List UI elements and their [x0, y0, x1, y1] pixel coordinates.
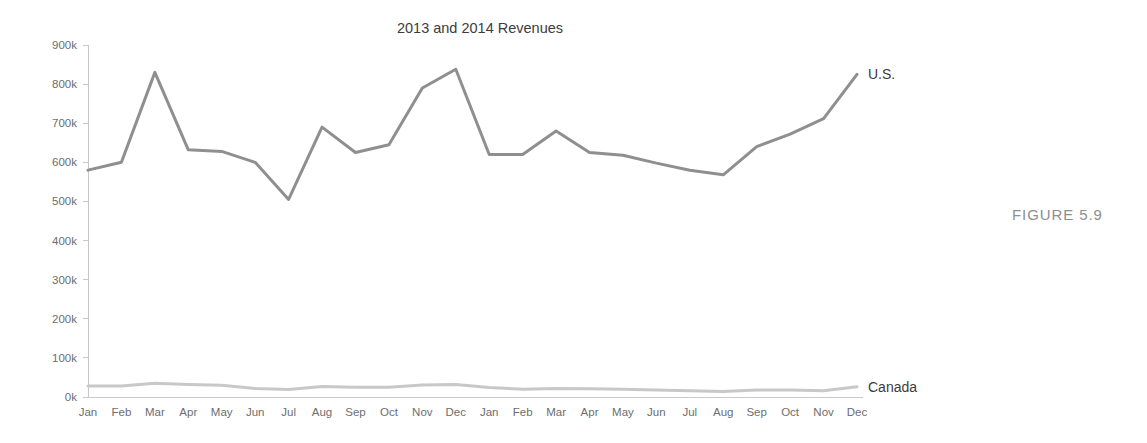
- x-tick-label: May: [612, 406, 634, 418]
- y-tick-label: 800k: [52, 78, 77, 90]
- x-tick-label: Dec: [847, 406, 868, 418]
- revenues-line-chart: 2013 and 2014 Revenues 0k100k200k300k400…: [0, 0, 960, 443]
- x-tick-label: Nov: [412, 406, 433, 418]
- y-tick-label: 200k: [52, 313, 77, 325]
- x-tick-label: Aug: [312, 406, 332, 418]
- chart-svg: 2013 and 2014 Revenues 0k100k200k300k400…: [0, 0, 960, 443]
- y-tick-label: 0k: [65, 391, 77, 403]
- y-tick-label: 300k: [52, 274, 77, 286]
- series-label-u-s: U.S.: [868, 66, 895, 82]
- series-lines: [88, 69, 857, 391]
- x-tick-label: Aug: [713, 406, 733, 418]
- x-tick-label: Jan: [480, 406, 499, 418]
- x-tick-label: Feb: [513, 406, 533, 418]
- y-axis: 0k100k200k300k400k500k600k700k800k900k: [52, 39, 88, 403]
- figure-caption: FIGURE 5.9: [1012, 206, 1103, 223]
- x-axis: JanFebMarAprMayJunJulAugSepOctNovDecJanF…: [79, 397, 868, 418]
- x-tick-label: Nov: [813, 406, 834, 418]
- x-tick-label: Dec: [446, 406, 467, 418]
- x-tick-label: May: [211, 406, 233, 418]
- x-tick-label: Jun: [647, 406, 666, 418]
- y-tick-label: 500k: [52, 195, 77, 207]
- x-tick-label: Jul: [682, 406, 697, 418]
- series-line-canada: [88, 383, 857, 391]
- x-tick-label: Apr: [179, 406, 197, 418]
- series-labels: U.S.Canada: [868, 66, 917, 394]
- x-tick-label: Oct: [781, 406, 800, 418]
- y-tick-label: 700k: [52, 117, 77, 129]
- series-label-canada: Canada: [868, 379, 917, 395]
- y-tick-label: 400k: [52, 235, 77, 247]
- x-tick-label: Jan: [79, 406, 98, 418]
- y-tick-label: 600k: [52, 156, 77, 168]
- x-tick-label: Sep: [746, 406, 766, 418]
- chart-title: 2013 and 2014 Revenues: [397, 20, 563, 36]
- x-tick-label: Mar: [546, 406, 566, 418]
- x-tick-label: Oct: [380, 406, 399, 418]
- x-tick-label: Sep: [345, 406, 365, 418]
- x-tick-label: Jul: [281, 406, 296, 418]
- series-line-u-s: [88, 69, 857, 199]
- x-tick-label: Mar: [145, 406, 165, 418]
- figure-container: 2013 and 2014 Revenues 0k100k200k300k400…: [0, 0, 1147, 443]
- x-tick-label: Jun: [246, 406, 265, 418]
- x-tick-label: Feb: [112, 406, 132, 418]
- y-tick-label: 100k: [52, 352, 77, 364]
- y-tick-label: 900k: [52, 39, 77, 51]
- x-tick-label: Apr: [581, 406, 599, 418]
